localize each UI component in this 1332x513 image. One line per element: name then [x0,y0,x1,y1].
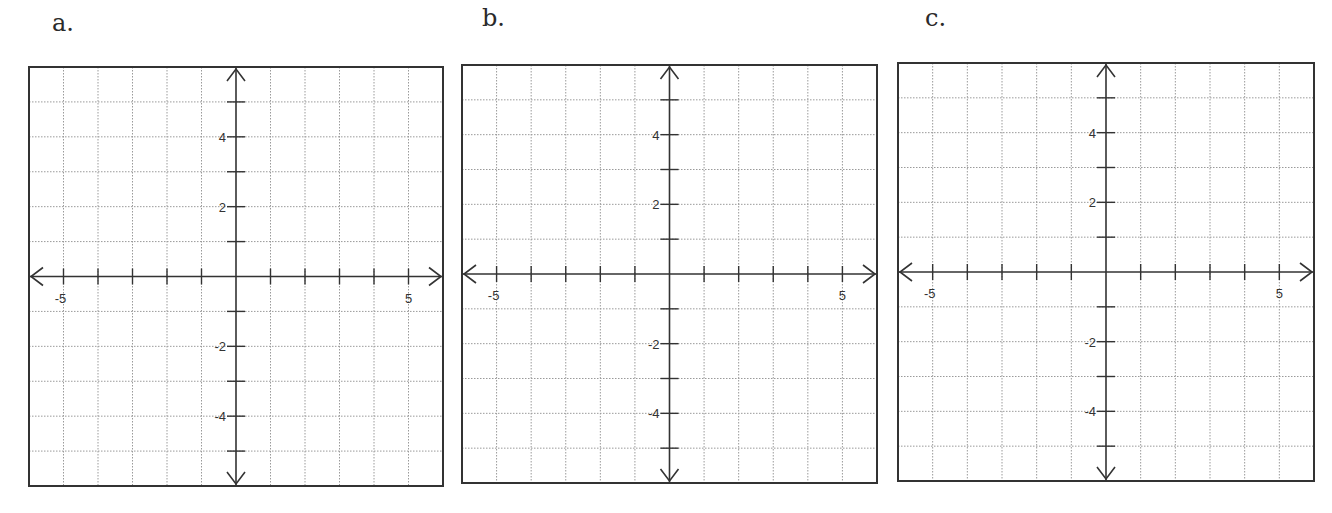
x-tick-label: 5 [1276,286,1283,301]
y-tick-label: -2 [648,337,660,352]
x-tick-label: -5 [488,288,500,303]
y-tick-label: -4 [1084,404,1096,419]
coordinate-plane-a: -5542-2-4 [29,67,443,486]
x-tick-label: 5 [405,291,412,306]
x-tick-label: 5 [839,288,846,303]
y-tick-label: 2 [652,197,659,212]
y-tick-label: 2 [1089,195,1096,210]
y-tick-label: -4 [648,406,660,421]
y-tick-label: 4 [1089,126,1096,141]
y-tick-label: 2 [219,200,226,215]
coordinate-grids: -5542-2-4 -5542-2-4 -5542-2-4 [0,0,1332,513]
coordinate-plane-c: -5542-2-4 [898,63,1314,481]
x-tick-label: -5 [55,291,67,306]
y-tick-label: -2 [1084,335,1096,350]
y-tick-label: 4 [219,130,226,145]
y-tick-label: 4 [652,128,659,143]
coordinate-plane-b: -5542-2-4 [462,65,877,483]
x-tick-label: -5 [924,286,936,301]
y-tick-label: -2 [214,339,226,354]
y-tick-label: -4 [214,409,226,424]
